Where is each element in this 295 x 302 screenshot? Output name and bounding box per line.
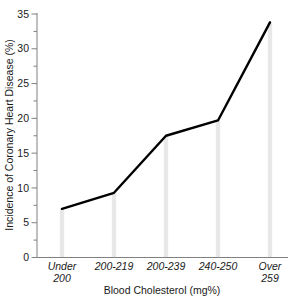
x-category-label: Over259: [259, 260, 282, 284]
category-bar: [164, 136, 168, 258]
x-category-label: 200-239: [146, 260, 186, 272]
y-axis-title: Incidence of Coronary Heart Disease (%): [3, 39, 15, 230]
chart-background: [0, 0, 295, 302]
category-bar: [60, 209, 64, 258]
category-bar: [268, 22, 272, 257]
y-tick-label: 5: [23, 216, 29, 228]
y-tick-label: 15: [17, 147, 29, 159]
y-tick-label: 10: [17, 182, 29, 194]
y-tick-label: 25: [17, 77, 29, 89]
x-category-label: 200-219: [94, 260, 134, 272]
y-tick-label: 35: [17, 8, 29, 20]
x-axis-title: Blood Cholesterol (mg%): [104, 284, 221, 296]
category-bar: [216, 120, 220, 257]
coronary-heart-disease-line-chart: 05101520253035 Under200200-219200-239240…: [0, 0, 295, 302]
y-tick-label: 0: [23, 251, 29, 263]
category-bar: [112, 193, 116, 258]
x-category-label: 240-250: [198, 260, 238, 272]
y-tick-label: 20: [17, 112, 29, 124]
y-tick-label: 30: [17, 42, 29, 54]
chart-container: 05101520253035 Under200200-219200-239240…: [0, 0, 295, 302]
